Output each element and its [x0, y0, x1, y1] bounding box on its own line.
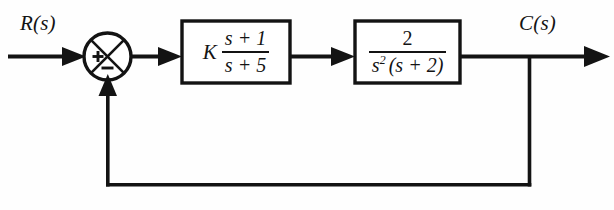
plant-transfer-function: 2 s2(s + 2) [355, 21, 460, 83]
output-signal-path [460, 46, 610, 67]
output-arrow-head [584, 46, 610, 67]
controller-gain-label: K [203, 42, 217, 63]
input-signal-path [8, 47, 86, 66]
plant-denominator-exponent: 2 [379, 53, 385, 67]
summing-junction [84, 33, 131, 80]
error-signal-path [131, 47, 182, 66]
block-diagram-figure: R(s) C(s) K s + 1 s + 5 2 s2(s + 2) [0, 0, 614, 210]
controller-output-path [290, 47, 355, 66]
output-label: C(s) [519, 13, 556, 34]
input-label: R(s) [20, 13, 56, 34]
controller-numerator: s + 1 [222, 28, 269, 51]
controller-denominator: s + 5 [222, 53, 269, 76]
feedback-path [99, 57, 532, 187]
plant-numerator: 2 [399, 28, 415, 51]
error-arrow-head [158, 47, 182, 66]
controller-transfer-function: K s + 1 s + 5 [182, 21, 290, 83]
controller-output-arrow-head [331, 47, 355, 66]
plant-denominator: s2(s + 2) [369, 53, 447, 76]
plant-fraction: 2 s2(s + 2) [369, 28, 447, 76]
controller-fraction: s + 1 s + 5 [222, 28, 269, 76]
plant-denominator-factor: (s + 2) [386, 54, 444, 76]
